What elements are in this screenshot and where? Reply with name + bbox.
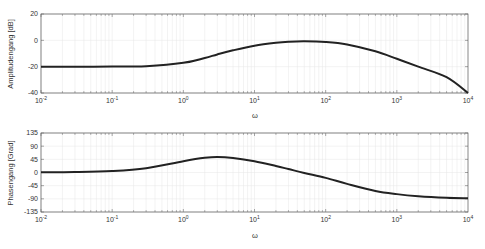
y-tick-label: 0 (34, 169, 38, 176)
phase-xlabel: ω (252, 231, 258, 240)
y-tick-label: 45 (30, 156, 38, 163)
bode-plot: 200-20-4010-210-1100101102103104 1359045… (0, 0, 485, 249)
magnitude-ylabel: Amplitudengang [dB] (6, 19, 15, 89)
y-tick-label: 20 (30, 10, 38, 17)
x-tick-label: 102 (320, 214, 331, 223)
y-tick-label: -135 (24, 208, 38, 215)
x-tick-label: 10-2 (35, 95, 47, 104)
y-tick-label: -20 (28, 63, 38, 70)
x-tick-label: 100 (178, 95, 189, 104)
phase-ylabel: Phasengang [Grad] (6, 140, 15, 205)
y-tick-label: -45 (28, 182, 38, 189)
x-tick-label: 102 (320, 95, 331, 104)
x-tick-label: 10-2 (35, 214, 47, 223)
x-tick-label: 101 (249, 214, 260, 223)
x-tick-label: 10-1 (106, 214, 118, 223)
x-tick-label: 103 (392, 214, 403, 223)
x-tick-label: 104 (463, 214, 474, 223)
x-tick-label: 104 (463, 95, 474, 104)
y-tick-label: -90 (28, 195, 38, 202)
y-tick-label: 0 (34, 37, 38, 44)
y-tick-label: -40 (28, 89, 38, 96)
y-tick-label: 135 (26, 129, 38, 136)
magnitude-xlabel: ω (252, 111, 258, 120)
y-tick-label: 90 (30, 143, 38, 150)
x-tick-label: 100 (178, 214, 189, 223)
x-tick-label: 103 (392, 95, 403, 104)
magnitude-plot: 200-20-4010-210-1100101102103104 (28, 10, 474, 104)
phase-plot: 13590450-45-90-13510-210-110010110210310… (24, 129, 474, 223)
x-tick-label: 10-1 (106, 95, 118, 104)
x-tick-label: 101 (249, 95, 260, 104)
